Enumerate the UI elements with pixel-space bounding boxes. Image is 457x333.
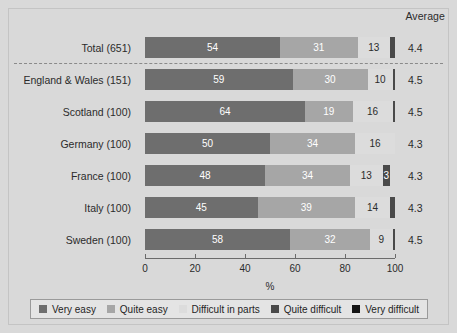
row-category-label: France (100) — [0, 160, 138, 192]
legend-swatch-icon — [179, 305, 187, 313]
row-average-value: 4.4 — [408, 32, 448, 64]
chart-row: Sweden (100)583294.5 — [0, 224, 457, 256]
stacked-bar: 593010 — [145, 69, 395, 90]
bar-segment-quite-difficult — [390, 37, 395, 58]
axis-tick-label: 0 — [142, 263, 148, 274]
row-average-value: 4.3 — [408, 160, 448, 192]
row-category-label: Italy (100) — [0, 192, 138, 224]
bar-segment-very-easy: 54 — [145, 37, 280, 58]
row-average-value: 4.3 — [408, 128, 448, 160]
bar-segment-quite-difficult — [393, 101, 396, 122]
stacked-bar: 543113 — [145, 37, 395, 58]
row-average-value: 4.3 — [408, 192, 448, 224]
axis-tick-mark — [395, 254, 396, 258]
chart-row: Total (651)5431134.4 — [0, 32, 457, 64]
legend-item-label: Quite easy — [120, 304, 168, 315]
row-category-label: Scotland (100) — [0, 96, 138, 128]
bar-segment-quite-difficult — [390, 197, 395, 218]
axis-tick-label: 100 — [387, 263, 404, 274]
chart-rows: Total (651)5431134.4England & Wales (151… — [0, 32, 457, 256]
legend-swatch-icon — [352, 305, 360, 313]
stacked-bar: 453914 — [145, 197, 395, 218]
row-category-label: Total (651) — [0, 32, 138, 64]
row-average-value: 4.5 — [408, 96, 448, 128]
axis-tick-label: 60 — [289, 263, 300, 274]
x-axis — [145, 258, 395, 259]
legend-swatch-icon — [39, 305, 47, 313]
bar-segment-difficult-in-parts: 13 — [350, 165, 383, 186]
chart-row: Scotland (100)6419164.5 — [0, 96, 457, 128]
bar-segment-quite-difficult: 3 — [383, 165, 391, 186]
bar-segment-very-easy: 58 — [145, 229, 290, 250]
x-axis-title: % — [145, 281, 395, 292]
stacked-bar: 58329 — [145, 229, 395, 250]
chart-row: England & Wales (151)5930104.5 — [0, 64, 457, 96]
bar-segment-difficult-in-parts: 16 — [355, 133, 395, 154]
legend-item-label: Very easy — [52, 304, 96, 315]
bar-segment-quite-easy: 34 — [270, 133, 355, 154]
bar-segment-quite-easy: 34 — [265, 165, 350, 186]
stacked-bar: 4834133 — [145, 165, 395, 186]
chart-row: Germany (100)5034164.3 — [0, 128, 457, 160]
axis-tick-label: 80 — [339, 263, 350, 274]
row-category-label: Sweden (100) — [0, 224, 138, 256]
bar-segment-difficult-in-parts: 9 — [370, 229, 393, 250]
bar-segment-quite-difficult — [393, 229, 396, 250]
legend-item-label: Difficult in parts — [192, 304, 260, 315]
bar-segment-difficult-in-parts: 10 — [368, 69, 393, 90]
bar-segment-very-easy: 45 — [145, 197, 258, 218]
stacked-bar: 503416 — [145, 133, 395, 154]
bar-segment-quite-easy: 30 — [293, 69, 368, 90]
row-category-label: Germany (100) — [0, 128, 138, 160]
bar-segment-quite-difficult — [393, 69, 396, 90]
bar-segment-very-easy: 64 — [145, 101, 305, 122]
bar-segment-very-easy: 59 — [145, 69, 293, 90]
bar-segment-quite-easy: 32 — [290, 229, 370, 250]
legend-item-label: Quite difficult — [284, 304, 342, 315]
stacked-bar: 641916 — [145, 101, 395, 122]
bar-segment-difficult-in-parts: 16 — [353, 101, 393, 122]
axis-tick-label: 40 — [239, 263, 250, 274]
bar-segment-very-easy: 48 — [145, 165, 265, 186]
legend-item-very-easy[interactable]: Very easy — [39, 304, 96, 315]
total-row-separator — [14, 63, 443, 64]
bar-segment-quite-easy: 39 — [258, 197, 356, 218]
stacked-bar-chart: Average Total (651)5431134.4England & Wa… — [0, 0, 457, 333]
bar-segment-quite-easy: 19 — [305, 101, 353, 122]
legend-swatch-icon — [271, 305, 279, 313]
legend-swatch-icon — [107, 305, 115, 313]
bar-segment-difficult-in-parts: 14 — [355, 197, 390, 218]
axis-tick-mark — [195, 254, 196, 258]
legend-item-difficult-in-parts[interactable]: Difficult in parts — [179, 304, 260, 315]
axis-tick-mark — [245, 254, 246, 258]
legend-item-label: Very difficult — [365, 304, 419, 315]
legend-item-very-difficult[interactable]: Very difficult — [352, 304, 419, 315]
legend-item-quite-easy[interactable]: Quite easy — [107, 304, 168, 315]
row-category-label: England & Wales (151) — [0, 64, 138, 96]
chart-legend: Very easyQuite easyDifficult in partsQui… — [30, 299, 428, 319]
axis-tick-mark — [345, 254, 346, 258]
bar-segment-difficult-in-parts: 13 — [358, 37, 391, 58]
chart-row: Italy (100)4539144.3 — [0, 192, 457, 224]
axis-tick-label: 20 — [189, 263, 200, 274]
average-column-header: Average — [405, 10, 445, 22]
bar-segment-quite-easy: 31 — [280, 37, 358, 58]
row-average-value: 4.5 — [408, 224, 448, 256]
row-average-value: 4.5 — [408, 64, 448, 96]
legend-item-quite-difficult[interactable]: Quite difficult — [271, 304, 342, 315]
axis-tick-mark — [295, 254, 296, 258]
chart-row: France (100)48341334.3 — [0, 160, 457, 192]
bar-segment-very-easy: 50 — [145, 133, 270, 154]
axis-tick-mark — [145, 254, 146, 258]
